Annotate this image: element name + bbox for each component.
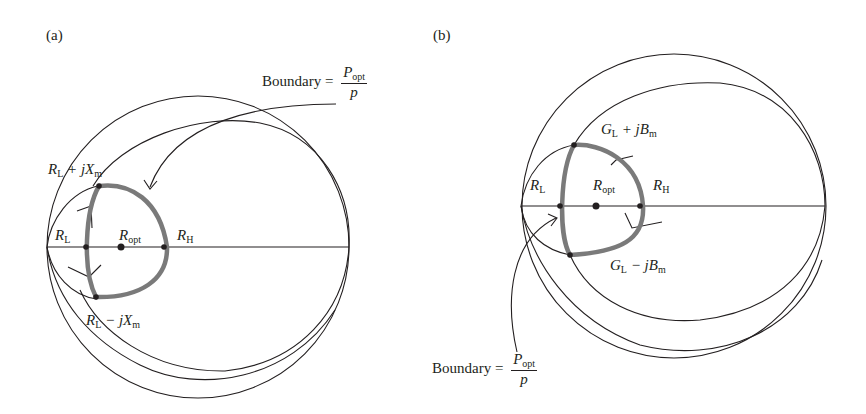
label-gl-minus-jbm: GL − jBm bbox=[610, 258, 666, 275]
boundary-pointer-b bbox=[511, 218, 556, 352]
point-gl-jb-bottom-b bbox=[567, 252, 573, 258]
label-rh-b: RH bbox=[653, 178, 669, 195]
panel-a-geometry bbox=[47, 96, 349, 398]
point-rh-a bbox=[161, 244, 167, 250]
constant-circle-large-b bbox=[570, 83, 825, 321]
label-rl-a: RL bbox=[55, 228, 70, 245]
boundary-word-b: Boundary = bbox=[432, 360, 503, 376]
constant-arc-left-b bbox=[521, 206, 822, 351]
boundary-contour-b bbox=[562, 145, 643, 255]
point-ropt-b bbox=[593, 203, 600, 210]
label-ropt-a: Ropt bbox=[119, 228, 141, 245]
label-rl-plus-jxm: RL + jXm bbox=[48, 162, 102, 179]
boundary-label-a: Boundary = Popt p bbox=[262, 65, 367, 100]
boundary-fraction-a: Popt p bbox=[341, 65, 367, 100]
panel-a-tag: (a) bbox=[46, 28, 63, 43]
label-rl-minus-jxm: RL − jXm bbox=[86, 313, 140, 330]
label-rl-b: RL bbox=[530, 178, 545, 195]
point-gl-jb-top-b bbox=[571, 142, 577, 148]
point-rl-jx-bottom-a bbox=[93, 294, 99, 300]
label-rh-a: RH bbox=[177, 228, 193, 245]
direction-tick-lower-a bbox=[68, 265, 101, 277]
label-ropt-b: Ropt bbox=[593, 178, 615, 195]
point-rl-a bbox=[83, 244, 89, 250]
label-gl-plus-jbm: GL + jBm bbox=[601, 122, 657, 139]
point-rl-b bbox=[557, 203, 563, 209]
boundary-fraction-b: Popt p bbox=[511, 352, 537, 387]
point-rh-b bbox=[637, 203, 643, 209]
boundary-word-a: Boundary = bbox=[262, 73, 333, 89]
point-rl-jx-top-a bbox=[96, 183, 102, 189]
boundary-label-b: Boundary = Popt p bbox=[432, 352, 537, 387]
panel-b-tag: (b) bbox=[433, 28, 451, 43]
